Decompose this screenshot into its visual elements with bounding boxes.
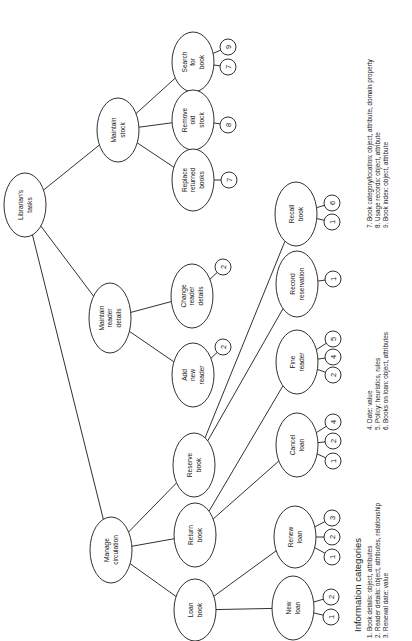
info-category-number: 1 — [328, 220, 337, 224]
info-tag-connector — [318, 280, 325, 281]
task-node-manage-circ: Managecirculation — [90, 517, 132, 583]
info-tag-connector — [318, 358, 325, 359]
info-tag-connector — [210, 272, 217, 279]
info-tags-recall_book: 61 — [317, 195, 340, 230]
legend-item: 8. Usage records: object, attribute — [374, 132, 382, 228]
task-node-loan-book: Loanbook — [174, 579, 216, 641]
info-category-number: 1 — [328, 555, 337, 559]
edge-root-maintain_stock — [44, 145, 100, 190]
task-node-change-reader: Changereaderdetails — [171, 264, 213, 328]
info-category-number: 2 — [329, 373, 338, 377]
legend-item: 3. Renewal date: value — [382, 573, 389, 638]
legend: Information categories 1. Book details: … — [352, 58, 390, 638]
info-category-number: 8 — [224, 123, 233, 127]
edge-maintain_stock-remove_stock — [139, 123, 172, 127]
task-label: Maintainreaderdetails — [98, 305, 122, 330]
task-node-renew-loan: Renewloan — [274, 506, 316, 568]
info-tag-connector — [315, 522, 325, 527]
legend-title: Information categories — [352, 538, 363, 632]
info-category-number: 6 — [328, 201, 337, 205]
info-tag-connector — [316, 426, 326, 432]
task-label: Managecirculation — [103, 535, 118, 565]
info-category-number: 2 — [219, 345, 228, 349]
info-tags-fine_reader: 542 — [316, 331, 341, 383]
info-category-number: 7 — [225, 178, 234, 182]
info-tag-connector — [317, 454, 326, 458]
info-tag-connector — [213, 50, 221, 53]
edge-maintain_reader-add_reader — [129, 331, 173, 362]
edge-maintain_reader-change_reader — [131, 302, 172, 313]
legend-item: 9. Book index: object, attribute — [382, 142, 390, 228]
edge-maintain_stock-search_book — [136, 78, 175, 114]
edge-return_book-fine_reader — [209, 386, 283, 511]
edge-manage_circ-return_book — [132, 539, 174, 547]
task-node-return-book: Returnbook — [174, 503, 216, 567]
task-node-remove-stock: Removeoldstock — [172, 90, 214, 150]
info-tags-remove_stock: 8 — [214, 117, 236, 133]
task-node-search-book: Searchforbook — [172, 32, 214, 92]
info-category-number: 5 — [329, 337, 338, 341]
info-tags-search_book: 97 — [213, 39, 236, 75]
info-tags-record_reservation: 1 — [318, 271, 341, 287]
info-tag-connector — [315, 548, 325, 554]
task-hierarchy-diagram: 97872261154242132121 Librarian'stasksMai… — [0, 0, 412, 641]
info-category-number: 2 — [327, 595, 336, 599]
legend-item: 7. Book category/location: object, attri… — [366, 58, 374, 228]
info-category-number: 4 — [329, 355, 338, 359]
edge-manage_circ-loan_book — [130, 564, 176, 597]
edge-loan_book-renew_loan — [214, 551, 276, 597]
info-tag-connector — [317, 369, 325, 372]
task-label: Recallbook — [288, 204, 303, 223]
info-category-number: 1 — [329, 277, 338, 281]
info-tags-new_loan: 21 — [314, 589, 339, 625]
info-category-number: 2 — [219, 265, 228, 269]
info-tags-add_reader: 2 — [211, 339, 231, 358]
edge-root-maintain_reader — [41, 226, 94, 296]
info-tag-connector — [314, 599, 324, 602]
task-node-replace-books: Replacereturnedbooks — [172, 149, 214, 211]
task-node-new-loan: Newloan — [272, 576, 314, 640]
info-category-number: 2 — [328, 535, 337, 539]
task-label: Changereaderdetails — [180, 284, 204, 307]
node-layer: Librarian'stasksMaintainstockMaintainrea… — [4, 32, 318, 641]
edge-manage_circ-reserve_book — [129, 483, 177, 532]
diagram-canvas: 97872261154242132121 Librarian'stasksMai… — [0, 0, 412, 641]
info-category-number: 3 — [328, 516, 337, 520]
task-node-fine-reader: Finereader — [276, 330, 318, 394]
task-node-maintain-stock: Maintainstock — [97, 98, 139, 162]
info-tags-change_reader: 2 — [210, 259, 231, 279]
info-tag-connector — [211, 352, 217, 358]
info-tags-replace_books: 7 — [214, 172, 237, 188]
info-tag-connector — [317, 205, 325, 207]
edge-maintain_stock-replace_books — [137, 143, 174, 167]
legend-item: 6. Books on loan: object, attributes — [382, 332, 390, 430]
task-node-add-reader: Addnewreader — [172, 343, 214, 407]
legend-item: 5. Policy: heuristics, rules — [374, 358, 382, 430]
info-tags-cancel_loan: 421 — [316, 414, 341, 469]
info-category-number: 1 — [327, 615, 336, 619]
legend-item: 4. Date: value — [366, 390, 373, 430]
legend-item: 2. Reader details: object, attributes, r… — [374, 503, 382, 638]
info-category-number: 9 — [224, 45, 233, 49]
legend-item: 1. Book details: object, attributes — [366, 546, 374, 638]
info-tag-connector — [214, 65, 220, 66]
edge-return_book-cancel_loan — [213, 461, 279, 519]
task-node-record-reservation: Recordreservation — [276, 251, 318, 317]
edge-loan_book-new_loan — [216, 608, 272, 609]
task-node-reserve-book: Reservebook — [173, 433, 215, 497]
task-node-cancel-loan: Cancelloan — [276, 413, 318, 477]
info-category-number: 2 — [329, 439, 338, 443]
info-tag-connector — [317, 219, 324, 221]
info-tag-connector — [314, 613, 323, 615]
info-tag-connector — [316, 343, 326, 349]
task-node-recall-book: Recallbook — [275, 182, 317, 246]
task-node-maintain-reader: Maintainreaderdetails — [89, 283, 131, 353]
task-label: Newloan — [285, 601, 300, 614]
task-node-root: Librarian'stasks — [4, 173, 46, 237]
task-label: Loanbook — [187, 602, 202, 617]
info-tags-renew_loan: 321 — [315, 510, 340, 565]
edge-reserve_book-record_reservation — [208, 309, 283, 441]
info-tag-connector — [214, 123, 220, 124]
info-category-number: 4 — [329, 420, 338, 424]
edge-root-manage_circ — [32, 235, 103, 519]
